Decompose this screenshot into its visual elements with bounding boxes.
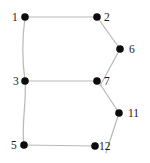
edge-7-11 [100, 84, 119, 113]
node-label: 6 [129, 43, 135, 55]
node-label: 5 [11, 139, 17, 151]
node-label: 11 [128, 107, 139, 119]
node-1: 1 [12, 11, 29, 23]
node-dot-icon [91, 142, 99, 150]
node-3: 3 [13, 75, 29, 87]
node-6: 6 [116, 43, 135, 55]
node-5: 5 [11, 139, 28, 151]
edge-5-12 [24, 145, 95, 146]
node-dot-icon [20, 141, 28, 149]
node-dot-icon [21, 13, 29, 21]
graph-diagram: 1263711512 [0, 0, 150, 163]
node-dot-icon [116, 45, 124, 53]
edge-3-5 [23, 81, 25, 145]
node-dot-icon [93, 13, 101, 21]
node-label: 7 [104, 75, 110, 87]
node-7: 7 [93, 75, 110, 87]
node-dot-icon [115, 109, 123, 117]
node-2: 2 [93, 11, 110, 23]
node-label: 12 [99, 140, 111, 152]
node-label: 3 [13, 75, 19, 87]
node-12: 12 [91, 140, 111, 152]
node-label: 2 [104, 11, 110, 23]
node-label: 1 [12, 11, 18, 23]
edge-1-3 [23, 17, 25, 81]
node-dot-icon [93, 77, 101, 85]
node-11: 11 [115, 107, 139, 119]
node-dot-icon [21, 77, 29, 85]
edge-6-7 [100, 49, 120, 86]
